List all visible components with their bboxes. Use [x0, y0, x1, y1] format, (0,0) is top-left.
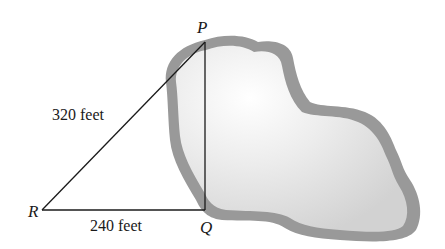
- point-label-q: Q: [200, 219, 212, 236]
- hypotenuse-length-label: 320 feet: [52, 107, 104, 123]
- pond-triangle-diagram: P Q R 320 feet 240 feet: [0, 0, 445, 249]
- point-label-p: P: [197, 19, 207, 36]
- diagram-canvas: [0, 0, 445, 249]
- point-label-r: R: [28, 203, 38, 220]
- base-length-label: 240 feet: [90, 218, 142, 234]
